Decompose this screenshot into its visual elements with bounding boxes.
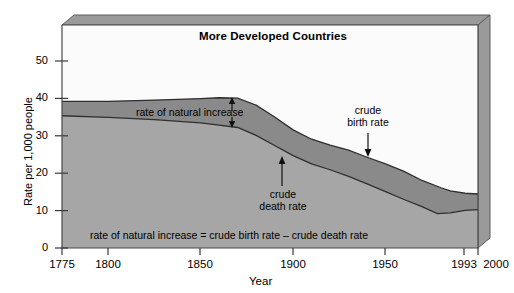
x-tick-label-2000: 2000 bbox=[478, 258, 514, 270]
x-tick-label-1775: 1775 bbox=[44, 258, 80, 270]
annotation-rate-of-natural-increase: rate of natural increase bbox=[136, 107, 243, 119]
y-tick-label-50: 50 bbox=[20, 54, 48, 66]
y-tick-label-0: 0 bbox=[20, 241, 48, 253]
chart-title: More Developed Countries bbox=[199, 30, 347, 42]
x-tick-label-1900: 1900 bbox=[275, 258, 311, 270]
annotation-crude-death-rate-line2: death rate bbox=[254, 201, 312, 213]
annotation-crude-death-rate-line1: crude bbox=[254, 189, 312, 201]
y-tick-label-30: 30 bbox=[20, 129, 48, 141]
x-tick-label-1993: 1993 bbox=[446, 258, 482, 270]
equation-caption: rate of natural increase = crude birth r… bbox=[90, 229, 368, 241]
annotation-crude-birth-rate-line1: crude bbox=[339, 105, 397, 117]
frame-right-bevel bbox=[478, 15, 490, 248]
y-axis-label: Rate per 1,000 people bbox=[22, 97, 34, 206]
frame-top-bevel bbox=[62, 15, 490, 25]
annotation-crude-birth-rate-line2: birth rate bbox=[339, 117, 397, 129]
x-axis-ticks bbox=[62, 248, 478, 255]
x-axis-label: Year bbox=[249, 275, 272, 287]
x-tick-label-1850: 1850 bbox=[182, 258, 218, 270]
x-tick-label-1950: 1950 bbox=[367, 258, 403, 270]
y-tick-label-40: 40 bbox=[20, 91, 48, 103]
y-tick-label-10: 10 bbox=[20, 204, 48, 216]
y-tick-label-20: 20 bbox=[20, 166, 48, 178]
x-tick-label-1800: 1800 bbox=[90, 258, 126, 270]
